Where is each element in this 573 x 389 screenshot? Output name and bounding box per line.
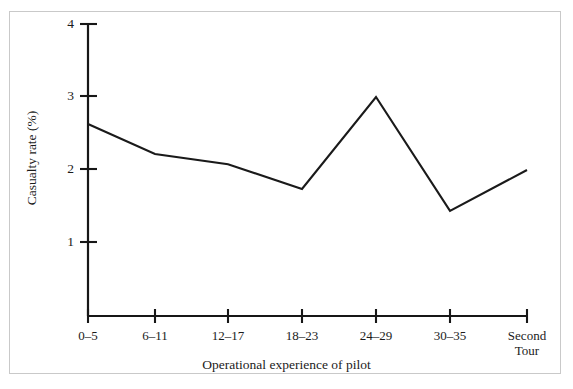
x-tick-label-12-17: 12–17 (188, 328, 268, 343)
y-tick-label-2: 2 (52, 162, 74, 176)
casualty-rate-line (88, 97, 527, 211)
x-axis-title: Operational experience of pilot (0, 357, 573, 373)
figure: 4 3 2 1 0–5 6–11 12–17 18–23 24–29 30–35… (0, 0, 573, 389)
x-tick-label-second-tour: Second Tour (487, 328, 567, 359)
x-tick-label-18-23: 18–23 (262, 328, 342, 343)
x-tick-label-6-11: 6–11 (115, 328, 195, 343)
y-axis-title: Casualty rate (%) (24, 88, 40, 228)
x-tick-label-30-35: 30–35 (410, 328, 490, 343)
y-tick-label-4: 4 (52, 17, 74, 31)
y-tick-label-1: 1 (52, 235, 74, 249)
x-tick-label-24-29: 24–29 (336, 328, 416, 343)
y-tick-label-3: 3 (52, 89, 74, 103)
